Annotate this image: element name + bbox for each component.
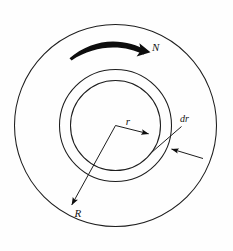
radius-line-R: [72, 126, 116, 205]
radius-line-r: [116, 126, 149, 134]
label-rotation-N: N: [151, 41, 160, 53]
figure-canvas: R r dr N: [0, 0, 233, 251]
label-inner-radius-r: r: [126, 115, 131, 127]
dr-pointer-arrow: [172, 149, 204, 159]
rotation-arc-arrow-icon: [70, 42, 151, 61]
rotation-arc-body: [70, 42, 146, 61]
label-element-thickness-dr: dr: [180, 113, 189, 124]
label-outer-radius-R: R: [74, 207, 82, 219]
diagram-svg: R r dr N: [0, 0, 233, 251]
